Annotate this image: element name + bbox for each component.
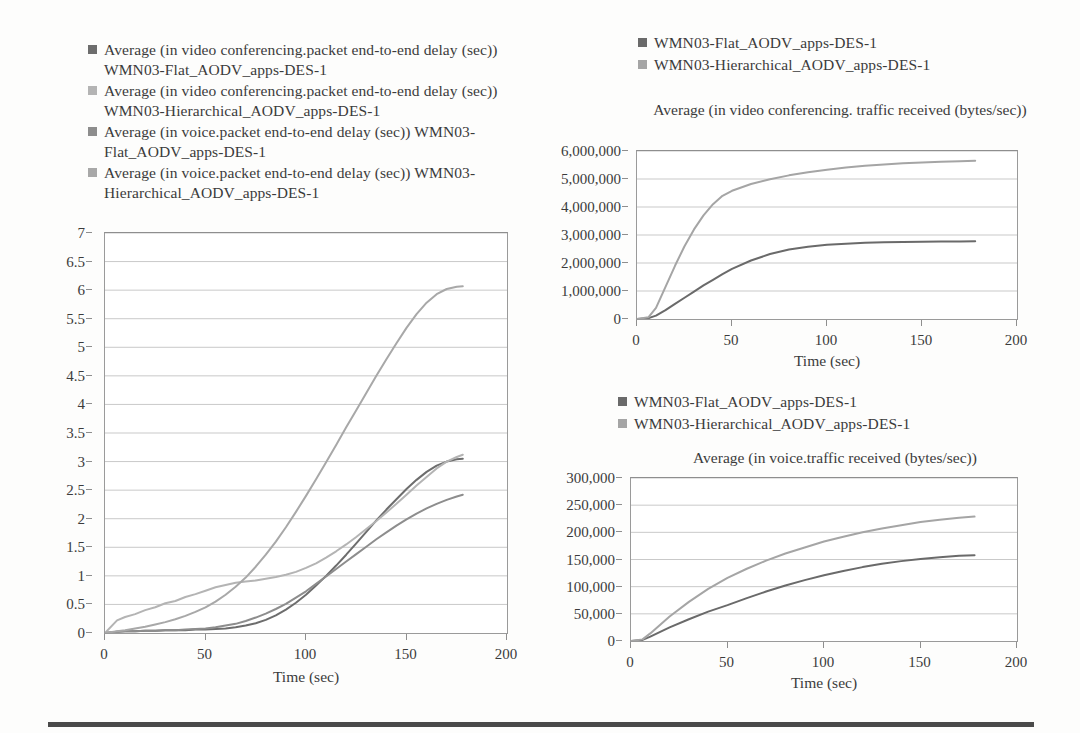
y-tick-label: 6.5 [66, 253, 92, 270]
y-tick-mark [86, 432, 92, 433]
figure-page: Average (in video conferencing.packet en… [0, 0, 1080, 733]
voice-traffic-x-axis-title: Time (sec) [630, 674, 1018, 692]
x-tick-label: 200 [1005, 654, 1028, 671]
voice-traffic-lines [631, 478, 1018, 642]
y-tick-label: 0 [608, 633, 623, 650]
x-tick-label: 0 [626, 654, 634, 671]
y-tick-label: 4.5 [66, 367, 92, 384]
y-tick-label: 5.5 [66, 310, 92, 327]
packet-delay-chart: 00.511.522.533.544.555.566.57 0501001502… [0, 0, 545, 700]
y-tick-mark [616, 586, 622, 587]
y-tick-label: 2 [78, 510, 93, 527]
series-line [105, 286, 463, 633]
x-tick-mark [205, 634, 206, 640]
voice-traffic-chart: Average (in voice.traffic received (byte… [540, 0, 1080, 733]
x-tick-label: 150 [908, 654, 931, 671]
series-line [631, 555, 975, 641]
x-tick-label: 0 [100, 646, 108, 663]
y-tick-mark [616, 531, 622, 532]
x-tick-mark [823, 642, 824, 648]
x-tick-mark [727, 642, 728, 648]
packet-delay-x-axis-labels: 050100150200 [104, 640, 508, 662]
y-tick-mark [616, 559, 622, 560]
y-tick-mark [86, 575, 92, 576]
voice-traffic-chart-title: Average (in voice.traffic received (byte… [600, 448, 1070, 467]
x-tick-mark [305, 634, 306, 640]
y-tick-mark [616, 640, 622, 641]
y-tick-label: 50,000 [574, 605, 622, 622]
voice-traffic-y-axis-labels: 050,000100,000150,000200,000250,000300,0… [540, 477, 622, 642]
packet-delay-y-axis-labels: 00.511.522.533.544.555.566.57 [30, 232, 92, 634]
x-tick-label: 50 [197, 646, 212, 663]
y-tick-label: 3.5 [66, 425, 92, 442]
y-tick-mark [86, 461, 92, 462]
voice-traffic-plot-area [630, 477, 1018, 642]
y-tick-label: 2.5 [66, 482, 92, 499]
y-tick-mark [86, 518, 92, 519]
y-tick-label: 5 [78, 339, 93, 356]
y-tick-mark [86, 375, 92, 376]
x-tick-mark [630, 642, 631, 648]
packet-delay-lines [105, 233, 508, 634]
series-line [105, 495, 463, 633]
x-tick-mark [406, 634, 407, 640]
y-tick-mark [616, 613, 622, 614]
y-tick-mark [616, 477, 622, 478]
y-tick-label: 300,000 [566, 470, 622, 487]
y-tick-mark [86, 546, 92, 547]
y-tick-label: 0.5 [66, 596, 92, 613]
y-tick-label: 7 [78, 225, 93, 242]
y-tick-mark [86, 403, 92, 404]
x-tick-mark [1016, 642, 1017, 648]
y-tick-mark [86, 232, 92, 233]
voice-traffic-x-axis-labels: 050100150200 [630, 648, 1018, 670]
y-tick-label: 100,000 [566, 578, 622, 595]
y-tick-label: 250,000 [566, 497, 622, 514]
x-tick-label: 100 [294, 646, 317, 663]
x-tick-label: 50 [719, 654, 734, 671]
y-tick-label: 1.5 [66, 539, 92, 556]
y-tick-label: 0 [78, 625, 93, 642]
y-tick-mark [86, 318, 92, 319]
x-tick-mark [506, 634, 507, 640]
y-tick-mark [86, 632, 92, 633]
series-line [105, 455, 463, 633]
y-tick-label: 6 [78, 282, 93, 299]
x-tick-label: 100 [812, 654, 835, 671]
page-bottom-rule [48, 722, 1034, 727]
y-tick-label: 3 [78, 453, 93, 470]
y-tick-label: 200,000 [566, 524, 622, 541]
y-tick-mark [616, 504, 622, 505]
y-tick-mark [86, 489, 92, 490]
y-tick-mark [86, 603, 92, 604]
packet-delay-plot-area [104, 232, 508, 634]
y-tick-mark [86, 289, 92, 290]
x-tick-mark [920, 642, 921, 648]
x-tick-label: 200 [495, 646, 518, 663]
x-tick-mark [104, 634, 105, 640]
y-tick-mark [86, 261, 92, 262]
y-tick-label: 150,000 [566, 551, 622, 568]
x-tick-label: 150 [394, 646, 417, 663]
y-tick-label: 1 [78, 567, 93, 584]
packet-delay-x-axis-title: Time (sec) [104, 668, 508, 686]
y-tick-label: 4 [78, 396, 93, 413]
y-tick-mark [86, 346, 92, 347]
